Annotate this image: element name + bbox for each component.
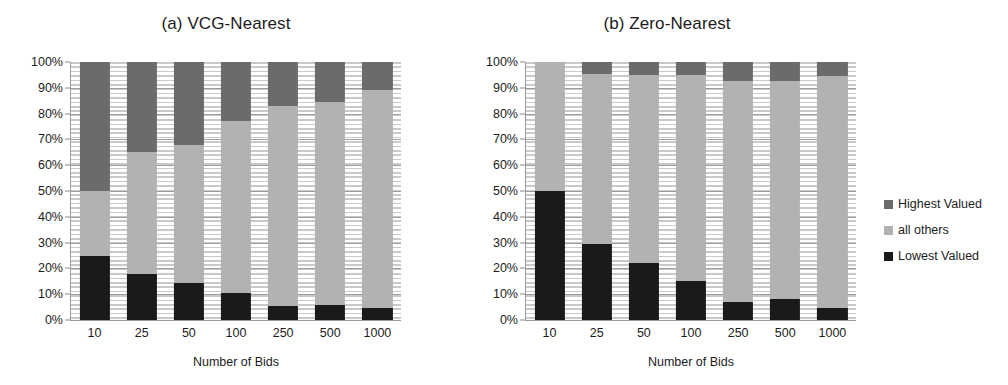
- x-tick-label: 50: [620, 326, 667, 340]
- stacked-bar[interactable]: [268, 62, 298, 320]
- legend-item[interactable]: all others: [884, 217, 1008, 243]
- stacked-bar[interactable]: [817, 62, 847, 320]
- x-tick-label: 100: [667, 326, 714, 340]
- bar-slot: [212, 62, 259, 320]
- bar-segment-highest-valued: [362, 62, 392, 90]
- bar-segment-highest-valued: [582, 62, 612, 74]
- y-tick-label: 40%: [493, 210, 518, 224]
- x-tick-label: 25: [118, 326, 165, 340]
- bar-segment-lowest-valued: [723, 302, 753, 320]
- plot-area-b: [525, 62, 856, 320]
- legend-swatch-icon: [884, 226, 893, 235]
- bar-segment-all-others: [582, 74, 612, 244]
- y-tick-label: 80%: [38, 107, 63, 121]
- chart-panel-zero-nearest: (b) Zero-Nearest 100%90%80%70%60%50%40%3…: [452, 0, 882, 385]
- bar-segment-highest-valued: [770, 62, 800, 81]
- bar-segment-highest-valued: [817, 62, 847, 76]
- legend-item[interactable]: Highest Valued: [884, 191, 1008, 217]
- bar-segment-lowest-valued: [127, 274, 157, 320]
- bar-segment-all-others: [221, 121, 251, 293]
- y-tick-label: 70%: [38, 132, 63, 146]
- bar-segment-lowest-valued: [79, 256, 109, 321]
- stacked-bar[interactable]: [582, 62, 612, 320]
- bar-segment-lowest-valued: [770, 299, 800, 320]
- bar-segment-highest-valued: [79, 62, 109, 191]
- bar-segment-all-others: [174, 145, 204, 283]
- y-tick-label: 100%: [486, 55, 518, 69]
- plot-area-a: [70, 62, 401, 320]
- y-tick-label: 100%: [31, 55, 63, 69]
- bar-slot: [71, 62, 118, 320]
- bar-segment-lowest-valued: [221, 293, 251, 320]
- stacked-bar[interactable]: [770, 62, 800, 320]
- stacked-bar[interactable]: [315, 62, 345, 320]
- bar-slot: [165, 62, 212, 320]
- chart-legend: Highest Valuedall othersLowest Valued: [884, 191, 1008, 269]
- y-tick-label: 0%: [45, 313, 63, 327]
- bar-segment-all-others: [127, 152, 157, 273]
- x-tick-label: 10: [526, 326, 573, 340]
- bar-segment-lowest-valued: [676, 281, 706, 320]
- x-tick-label: 500: [307, 326, 354, 340]
- bar-segment-all-others: [315, 102, 345, 305]
- stacked-bar[interactable]: [676, 62, 706, 320]
- stacked-bar[interactable]: [221, 62, 251, 320]
- x-tick-label: 25: [573, 326, 620, 340]
- y-tick-label: 0%: [500, 313, 518, 327]
- y-tick-label: 60%: [38, 158, 63, 172]
- stacked-bar[interactable]: [629, 62, 659, 320]
- x-tick-label: 1000: [809, 326, 856, 340]
- bar-slot: [573, 62, 620, 320]
- bar-segment-all-others: [770, 81, 800, 299]
- bar-segment-highest-valued: [221, 62, 251, 121]
- y-tick-label: 10%: [493, 287, 518, 301]
- bar-slot: [809, 62, 856, 320]
- bar-segment-highest-valued: [723, 62, 753, 81]
- y-tick-label: 30%: [38, 236, 63, 250]
- y-axis-b: 100%90%80%70%60%50%40%30%20%10%0%: [479, 62, 525, 320]
- x-axis-title-b: Number of Bids: [526, 355, 856, 369]
- bar-segment-highest-valued: [676, 62, 706, 75]
- y-tick-label: 20%: [38, 261, 63, 275]
- bar-segment-all-others: [534, 62, 564, 191]
- y-axis-a: 100%90%80%70%60%50%40%30%20%10%0%: [24, 62, 70, 320]
- bar-segment-all-others: [629, 75, 659, 263]
- stacked-bar[interactable]: [174, 62, 204, 320]
- bar-segment-lowest-valued: [582, 244, 612, 320]
- stacked-bar[interactable]: [127, 62, 157, 320]
- plot-block-a: 100%90%80%70%60%50%40%30%20%10%0%: [24, 62, 401, 320]
- stacked-bar[interactable]: [723, 62, 753, 320]
- x-axis-title-a: Number of Bids: [71, 355, 401, 369]
- legend-swatch-icon: [884, 200, 893, 209]
- bar-segment-highest-valued: [174, 62, 204, 145]
- bar-slot: [526, 62, 573, 320]
- bar-slot: [620, 62, 667, 320]
- y-tick-label: 70%: [493, 132, 518, 146]
- bar-segment-highest-valued: [629, 62, 659, 75]
- bar-segment-all-others: [817, 76, 847, 308]
- legend-swatch-icon: [884, 252, 893, 261]
- bar-segment-lowest-valued: [268, 306, 298, 320]
- x-tick-label: 10: [71, 326, 118, 340]
- bar-segment-lowest-valued: [629, 263, 659, 320]
- x-tick-label: 100: [212, 326, 259, 340]
- stacked-bar[interactable]: [79, 62, 109, 320]
- stacked-bar[interactable]: [534, 62, 564, 320]
- y-tick-label: 30%: [493, 236, 518, 250]
- bar-segment-lowest-valued: [362, 308, 392, 320]
- legend-item[interactable]: Lowest Valued: [884, 243, 1008, 269]
- x-tick-labels-a: 1025501002505001000: [71, 326, 401, 340]
- bar-group-b: [526, 62, 856, 320]
- bar-segment-highest-valued: [127, 62, 157, 152]
- bar-group-a: [71, 62, 401, 320]
- y-tick-label: 50%: [38, 184, 63, 198]
- stacked-bar[interactable]: [362, 62, 392, 320]
- y-tick-label: 10%: [38, 287, 63, 301]
- y-tick-label: 90%: [38, 81, 63, 95]
- bar-segment-lowest-valued: [534, 191, 564, 320]
- plot-block-b: 100%90%80%70%60%50%40%30%20%10%0%: [479, 62, 856, 320]
- y-tick-label: 80%: [493, 107, 518, 121]
- x-axis-line-a: [70, 320, 401, 321]
- bar-segment-all-others: [362, 90, 392, 308]
- bar-segment-highest-valued: [268, 62, 298, 106]
